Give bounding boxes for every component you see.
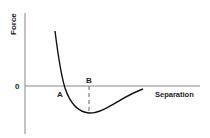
point-a-label: A bbox=[57, 90, 63, 99]
force-separation-diagram: Force 0 A B Separation bbox=[0, 0, 210, 138]
point-b-label: B bbox=[86, 76, 92, 85]
force-curve bbox=[55, 31, 143, 113]
y-axis-label: Force bbox=[9, 13, 18, 35]
origin-label: 0 bbox=[15, 82, 20, 91]
x-axis-label: Separation bbox=[155, 90, 194, 99]
